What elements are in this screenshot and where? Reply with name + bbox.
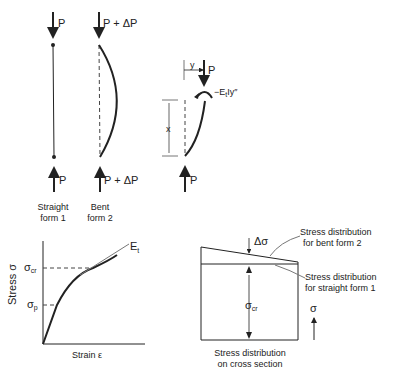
free-body-segment: y P −EtIy″ x P xyxy=(162,60,238,192)
caption-line1: Straight xyxy=(37,202,69,212)
sigma-axis-label: σ xyxy=(310,302,317,314)
caption-line2: on cross section xyxy=(217,359,282,369)
sigma-p-label: σp xyxy=(27,298,38,312)
top-load-label: P + ΔP xyxy=(103,17,137,29)
stress-strain-chart: Stress σ Strain ε σcr σp Et xyxy=(6,240,145,360)
column-buckling-diagram: P P Straight form 1 P + ΔP P + ΔP Bent f… xyxy=(0,0,400,380)
bent-column: P + ΔP P + ΔP Bent form 2 xyxy=(87,12,138,223)
tangent-label: Et xyxy=(130,240,139,254)
top-load-label: P xyxy=(208,64,215,76)
bottom-load-label: P xyxy=(59,174,66,186)
x-axis-label: Strain ε xyxy=(72,350,102,360)
straight-note-line2: for straight form 1 xyxy=(305,283,376,293)
bottom-load-label: P xyxy=(190,174,197,186)
delta-sigma-label: Δσ xyxy=(254,235,268,247)
moment-arrow-icon xyxy=(194,93,199,99)
sigma-cr-label: σcr xyxy=(24,261,37,274)
bottom-load-label: P + ΔP xyxy=(104,174,138,186)
moment-label: −EtIy″ xyxy=(214,87,238,98)
length-label: x xyxy=(166,124,171,134)
sigma-cr-label: σcr xyxy=(245,299,258,312)
straight-column: P P Straight form 1 xyxy=(37,12,69,223)
stress-distribution: Δσ σcr Stress distribution for bent form… xyxy=(201,227,377,369)
y-axis-label: Stress σ xyxy=(6,264,18,305)
caption-line1: Bent xyxy=(91,202,110,212)
straight-note-line1: Stress distribution xyxy=(305,272,377,282)
bent-note-line2: for bent form 2 xyxy=(303,238,362,248)
deflection-label: y xyxy=(190,60,195,70)
caption-line2: form 2 xyxy=(87,213,113,223)
bent-note-line1: Stress distribution xyxy=(300,227,372,237)
top-load-label: P xyxy=(58,17,65,29)
caption-line1: Stress distribution xyxy=(214,348,286,358)
caption-line2: form 1 xyxy=(40,213,66,223)
